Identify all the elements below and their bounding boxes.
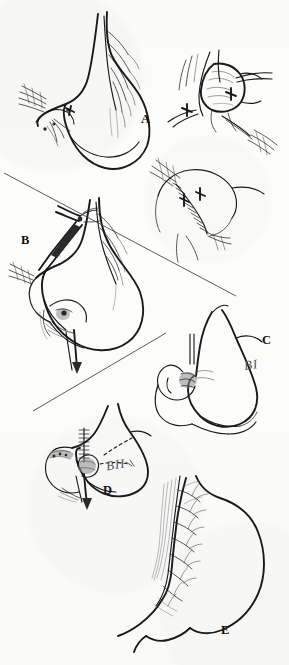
divider-upper [4, 173, 236, 296]
panel-label-a: A [141, 112, 150, 127]
annotation-billroth-1: BI [243, 356, 260, 374]
annotation-billroth-2: BII [105, 456, 127, 475]
panel-label-c: C [262, 333, 271, 348]
panel-dividers [0, 0, 289, 665]
figure-plate: A B C D E BI BII [0, 0, 289, 665]
panel-label-b: B [21, 233, 30, 248]
panel-label-e: E [221, 623, 230, 638]
divider-lower [33, 333, 166, 411]
panel-label-d: D [103, 483, 112, 498]
